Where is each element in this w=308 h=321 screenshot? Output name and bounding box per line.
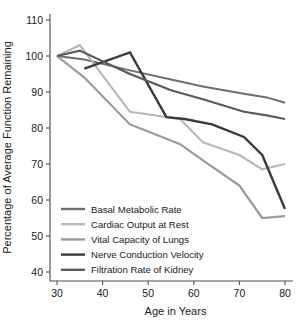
y-tick-label: 110 — [26, 14, 43, 26]
legend-label-1: Cardiac Output at Rest — [91, 219, 189, 230]
y-tick-label: 50 — [31, 230, 43, 242]
y-tick-label: 60 — [31, 194, 43, 206]
line-chart: 405060708090100110304050607080Age in Yea… — [0, 0, 308, 321]
legend-label-2: Vital Capacity of Lungs — [91, 234, 189, 245]
chart-container: 405060708090100110304050607080Age in Yea… — [0, 0, 308, 321]
y-tick-label: 40 — [31, 266, 43, 278]
y-tick-label: 90 — [31, 86, 43, 98]
x-axis-title: Age in Years — [145, 305, 207, 317]
x-tick-label: 60 — [188, 287, 200, 299]
x-tick-label: 50 — [142, 287, 154, 299]
y-axis-title: Percentage of Average Function Remaining — [1, 41, 13, 254]
series-line-3 — [84, 52, 285, 209]
y-tick-label: 70 — [31, 158, 43, 170]
legend-label-4: Filtration Rate of Kidney — [91, 264, 194, 275]
x-tick-label: 40 — [97, 287, 109, 299]
legend-label-0: Basal Metabolic Rate — [91, 204, 182, 215]
x-tick-label: 80 — [279, 287, 291, 299]
x-tick-label: 30 — [51, 287, 63, 299]
legend-label-3: Nerve Conduction Velocity — [91, 249, 204, 260]
y-tick-label: 80 — [31, 122, 43, 134]
x-tick-label: 70 — [234, 287, 246, 299]
series-line-0 — [57, 56, 285, 103]
series-line-1 — [57, 45, 285, 169]
y-tick-label: 100 — [25, 50, 43, 62]
